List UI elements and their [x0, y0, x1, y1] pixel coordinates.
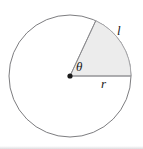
angle-theta-label: θ [76, 60, 82, 73]
radius-label: r [101, 77, 106, 90]
circle-sector-diagram [0, 0, 143, 149]
bottom-edge-shading [0, 146, 143, 149]
center-point-dot [67, 73, 72, 78]
geometry-figure: θ l r [0, 0, 143, 149]
arc-length-label: l [117, 24, 121, 37]
